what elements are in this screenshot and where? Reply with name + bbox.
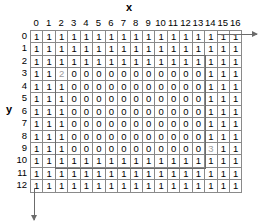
grid-cell-12-11: 1 — [180, 168, 192, 180]
grid-cell-1-0: 1 — [43, 31, 55, 43]
x-axis-arrow-icon — [217, 34, 257, 35]
grid-cell-12-6: 0 — [180, 106, 192, 118]
grid-cell-11-3: 0 — [168, 68, 180, 80]
grid-cell-6-1: 1 — [106, 43, 118, 55]
x-tick-label-5: 5 — [92, 17, 104, 29]
grid-cell-10-1: 1 — [155, 43, 167, 55]
x-axis-tick-labels: 012345678910111213141516 — [30, 17, 241, 29]
x-tick-label-3: 3 — [67, 17, 79, 29]
grid-cell-2-7: 1 — [56, 118, 68, 130]
grid-cell-7-9: 0 — [118, 143, 130, 155]
y-tick-label-3: 3 — [12, 67, 29, 79]
grid-cell-0-2: 1 — [31, 56, 43, 68]
y-axis-tick-labels: 0123456789101112 — [12, 30, 29, 192]
grid-cell-15-12: 1 — [218, 180, 230, 192]
grid-cell-9-10: 1 — [143, 155, 155, 167]
grid-cell-6-4: 0 — [106, 81, 118, 93]
grid-cell-8-5: 0 — [131, 93, 143, 105]
y-tick-label-7: 7 — [12, 117, 29, 129]
grid-cell-2-11: 1 — [56, 168, 68, 180]
grid-cell-5-10: 1 — [93, 155, 105, 167]
grid-cell-10-7: 0 — [155, 118, 167, 130]
grid-cell-13-9: 0 — [193, 143, 205, 155]
grid-cell-15-5: 1 — [218, 93, 230, 105]
grid-cell-3-10: 1 — [68, 155, 80, 167]
y-tick-label-6: 6 — [12, 105, 29, 117]
grid-cell-1-4: 1 — [43, 81, 55, 93]
grid-cells: 1111111111111111111111111111111111111111… — [30, 30, 242, 193]
grid-cell-6-7: 0 — [106, 118, 118, 130]
grid-cell-3-5: 0 — [68, 93, 80, 105]
grid-row: 11111111111111111 — [31, 43, 242, 55]
grid-cell-7-6: 0 — [118, 106, 130, 118]
grid-row: 11100000000000111 — [31, 118, 242, 130]
x-tick-label-8: 8 — [130, 17, 142, 29]
grid-cell-2-4: 1 — [56, 81, 68, 93]
y-tick-label-5: 5 — [12, 92, 29, 104]
grid-cell-7-11: 1 — [118, 168, 130, 180]
grid-cell-11-2: 1 — [168, 56, 180, 68]
grid-cell-0-6: 1 — [31, 106, 43, 118]
y-tick-label-9: 9 — [12, 142, 29, 154]
grid-cell-13-8: 0 — [193, 131, 205, 143]
grid-cell-3-4: 0 — [68, 81, 80, 93]
grid-cell-15-3: 1 — [218, 68, 230, 80]
grid-cell-7-1: 1 — [118, 43, 130, 55]
grid-cell-0-10: 1 — [31, 155, 43, 167]
grid-cell-10-10: 1 — [155, 155, 167, 167]
grid-cell-3-11: 1 — [68, 168, 80, 180]
grid-cell-10-11: 1 — [155, 168, 167, 180]
grid-row: 11100000000000111 — [31, 131, 242, 143]
x-tick-label-10: 10 — [154, 17, 166, 29]
grid-cell-5-3: 0 — [93, 68, 105, 80]
grid-cell-0-3: 1 — [31, 68, 43, 80]
grid-cell-16-3: 1 — [230, 68, 242, 80]
grid-cell-8-6: 0 — [131, 106, 143, 118]
grid-cell-6-8: 0 — [106, 131, 118, 143]
grid-cell-4-12: 1 — [81, 180, 93, 192]
grid-cell-15-11: 1 — [218, 168, 230, 180]
grid-cell-11-11: 1 — [168, 168, 180, 180]
grid-cell-10-5: 0 — [155, 93, 167, 105]
grid-cell-3-0: 1 — [68, 31, 80, 43]
grid-cell-16-0: 1 — [230, 31, 242, 43]
grid-cell-16-7: 1 — [230, 118, 242, 130]
grid-cell-0-11: 1 — [31, 168, 43, 180]
grid-cell-16-1: 1 — [230, 43, 242, 55]
grid-cell-2-12: 1 — [56, 180, 68, 192]
grid-cell-11-5: 0 — [168, 93, 180, 105]
grid-cell-13-2: 1 — [193, 56, 205, 68]
grid-cell-4-3: 0 — [81, 68, 93, 80]
grid-cell-8-7: 0 — [131, 118, 143, 130]
grid-cell-0-0: 1 — [31, 31, 43, 43]
grid-cell-0-8: 1 — [31, 131, 43, 143]
grid-cell-16-6: 1 — [230, 106, 242, 118]
grid-cell-5-11: 1 — [93, 168, 105, 180]
grid-cell-12-5: 0 — [180, 93, 192, 105]
grid-cell-3-1: 1 — [68, 43, 80, 55]
y-axis-arrow-icon — [34, 188, 35, 220]
grid-cell-14-1: 1 — [205, 43, 217, 55]
grid-cell-10-2: 1 — [155, 56, 167, 68]
grid-cell-15-6: 1 — [218, 106, 230, 118]
grid-cell-5-8: 0 — [93, 131, 105, 143]
grid-cell-9-1: 1 — [143, 43, 155, 55]
grid-cell-5-9: 0 — [93, 143, 105, 155]
grid-cell-4-6: 0 — [81, 106, 93, 118]
grid-row: 11200000000000111 — [31, 68, 242, 80]
grid-row: 11111111111111111 — [31, 31, 242, 43]
x-tick-label-4: 4 — [80, 17, 92, 29]
grid-cell-8-10: 1 — [131, 155, 143, 167]
grid-cell-16-4: 1 — [230, 81, 242, 93]
grid-cell-5-4: 0 — [93, 81, 105, 93]
grid-cell-7-10: 1 — [118, 155, 130, 167]
grid-cell-16-2: 1 — [230, 56, 242, 68]
grid-cell-1-3: 1 — [43, 68, 55, 80]
grid-cell-11-10: 1 — [168, 155, 180, 167]
grid-cell-11-9: 0 — [168, 143, 180, 155]
grid-cell-14-4: 1 — [205, 81, 217, 93]
grid-cell-13-10: 1 — [193, 155, 205, 167]
grid-cell-4-9: 0 — [81, 143, 93, 155]
y-tick-label-8: 8 — [12, 130, 29, 142]
grid-cell-14-12: 1 — [205, 180, 217, 192]
